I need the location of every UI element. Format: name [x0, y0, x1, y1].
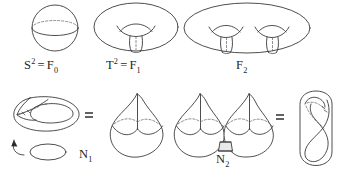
label-sphere-eq: = [35, 58, 46, 72]
n2-left-teardrop-outline [174, 94, 224, 157]
crosscap-immersion-drawing [11, 97, 79, 160]
torus-tube-bottom [132, 52, 141, 53]
genus2-drawing [184, 3, 310, 54]
figure-canvas [0, 0, 348, 174]
label-n2-sub: 2 [225, 160, 229, 169]
label-n2-family: N [216, 152, 225, 166]
label-genus2: F2 [236, 59, 247, 72]
n1-crosscap-drawing [110, 94, 163, 157]
sphere-drawing [32, 5, 78, 51]
n2-crosscap-drawing [174, 94, 273, 157]
genus2-left-tube-bottom [223, 53, 231, 54]
topology-figure: S2=F0 T2=F1 F2 N1 N2 [0, 0, 348, 174]
equals-sign-1 [85, 113, 93, 117]
label-torus-eq: = [118, 58, 129, 72]
label-sphere-family: F [47, 58, 54, 72]
label-sphere: S2=F0 [24, 59, 58, 72]
label-genus2-sub: 2 [243, 66, 247, 75]
label-n1-sub: 1 [88, 155, 92, 164]
genus2-right-tube-bottom [269, 53, 277, 54]
klein-bottle-drawing [300, 91, 332, 166]
n2-tube-body [219, 142, 233, 151]
label-torus: T2=F1 [106, 59, 141, 72]
genus2-outer-outline [184, 3, 310, 53]
label-torus-family: F [129, 58, 136, 72]
arrow-head-icon [11, 140, 17, 147]
n1-teardrop-outline [110, 94, 163, 157]
label-n1: N1 [79, 148, 93, 161]
torus-drawing [94, 3, 178, 53]
label-torus-base: T [106, 58, 114, 72]
torus-outer-outline [94, 3, 178, 51]
label-n1-family: N [79, 147, 88, 161]
n2-connecting-tube [219, 142, 233, 151]
label-sphere-sub: 0 [54, 66, 58, 75]
boundary-circle [30, 144, 66, 160]
label-n2: N2 [216, 153, 230, 166]
equals-sign-2 [276, 115, 284, 119]
label-torus-sub: 1 [137, 66, 141, 75]
n2-left-teardrop [174, 94, 224, 157]
sphere-outline [32, 5, 78, 51]
